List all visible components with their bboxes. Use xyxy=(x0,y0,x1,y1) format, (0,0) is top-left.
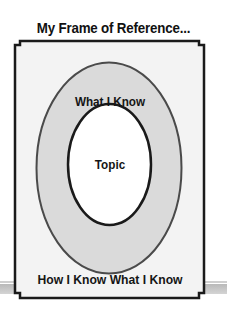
what-i-know-label: What I Know xyxy=(65,94,155,109)
diagram-title: My Frame of Reference... xyxy=(9,20,218,36)
topic-label: Topic xyxy=(83,157,137,172)
frame-diagram xyxy=(0,0,227,312)
how-i-know-label: How I Know What I Know xyxy=(24,272,197,287)
